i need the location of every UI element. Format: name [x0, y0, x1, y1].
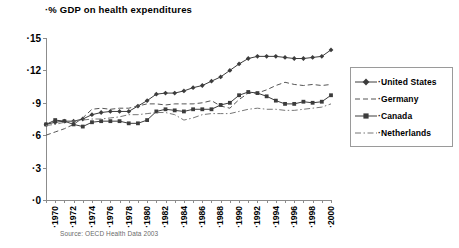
x-tick-mark	[221, 200, 222, 203]
x-tick-mark	[110, 200, 111, 203]
x-tick-label: ·1972	[68, 206, 78, 228]
legend-marker-icon	[354, 76, 378, 88]
x-tick-mark	[175, 200, 176, 203]
x-tick-mark	[276, 200, 277, 203]
legend-label: ·Canada	[378, 111, 412, 121]
x-tick-mark	[257, 200, 258, 203]
chart-container: ·% GDP on health expenditures ·0·3·6·9·1…	[0, 0, 459, 248]
x-tick-label: ·1998	[307, 206, 317, 228]
y-tick-label: ·6	[32, 130, 41, 141]
x-tick-label: ·1994	[271, 206, 281, 228]
x-tick-mark	[120, 200, 121, 203]
legend-label: ·Germany	[378, 94, 418, 104]
series-2	[44, 90, 333, 128]
legend-item-2[interactable]: ·Canada	[354, 107, 448, 124]
x-tick-label: ·1980	[142, 206, 152, 228]
x-tick-mark	[211, 200, 212, 203]
series-3	[46, 104, 331, 126]
x-tick-mark	[92, 200, 93, 203]
x-tick-mark	[239, 200, 240, 203]
x-tick-label: ·1986	[197, 206, 207, 228]
y-tick-label: ·3	[32, 162, 41, 173]
x-axis-line	[46, 200, 331, 201]
x-tick-label: ·1982	[160, 206, 170, 228]
x-tick-mark	[248, 200, 249, 203]
x-tick-mark	[129, 200, 130, 203]
plot-area: ·0·3·6·9·12·15 ·1970·1972·1974·1976·1978…	[46, 38, 331, 200]
x-tick-label: ·2000	[326, 206, 336, 228]
chart-legend: ·United States·Germany·Canada·Netherland…	[350, 67, 453, 147]
x-tick-mark	[230, 200, 231, 203]
x-tick-label: ·1970	[50, 206, 60, 228]
x-tick-mark	[313, 200, 314, 203]
x-tick-mark	[193, 200, 194, 203]
x-tick-mark	[285, 200, 286, 203]
chart-title: ·% GDP on health expenditures	[45, 4, 192, 15]
x-tick-label: ·1990	[234, 206, 244, 228]
series-0	[44, 47, 334, 126]
x-tick-label: ·1988	[215, 206, 225, 228]
x-tick-mark	[294, 200, 295, 203]
series-1	[46, 82, 331, 135]
x-tick-mark	[322, 200, 323, 203]
x-tick-mark	[138, 200, 139, 203]
series-lines	[46, 38, 331, 200]
y-tick-label: ·9	[32, 97, 41, 108]
x-tick-mark	[74, 200, 75, 203]
x-tick-mark	[156, 200, 157, 203]
source-note: Source: OECD Health Data 2003	[60, 230, 158, 237]
y-tick-label: ·0	[32, 195, 41, 206]
x-tick-mark	[147, 200, 148, 203]
legend-item-0[interactable]: ·United States	[354, 73, 448, 90]
y-tick-label: ·12	[27, 65, 41, 76]
x-tick-mark	[331, 200, 332, 203]
x-tick-label: ·1974	[87, 206, 97, 228]
legend-marker-icon	[354, 127, 378, 139]
x-tick-label: ·1996	[289, 206, 299, 228]
x-tick-mark	[101, 200, 102, 203]
y-tick-label: ·15	[27, 33, 41, 44]
x-tick-mark	[184, 200, 185, 203]
x-tick-label: ·1992	[252, 206, 262, 228]
x-tick-label: ·1978	[124, 206, 134, 228]
x-tick-label: ·1976	[105, 206, 115, 228]
legend-marker-icon	[354, 93, 378, 105]
x-tick-label: ·1984	[179, 206, 189, 228]
x-tick-mark	[166, 200, 167, 203]
x-tick-mark	[64, 200, 65, 203]
x-tick-mark	[267, 200, 268, 203]
x-tick-mark	[202, 200, 203, 203]
legend-marker-icon	[354, 110, 378, 122]
x-tick-mark	[55, 200, 56, 203]
legend-item-1[interactable]: ·Germany	[354, 90, 448, 107]
legend-label: ·Netherlands	[378, 128, 431, 138]
x-tick-mark	[83, 200, 84, 203]
x-tick-mark	[46, 200, 47, 203]
legend-label: ·United States	[378, 77, 437, 87]
x-tick-mark	[303, 200, 304, 203]
legend-item-3[interactable]: ·Netherlands	[354, 124, 448, 141]
